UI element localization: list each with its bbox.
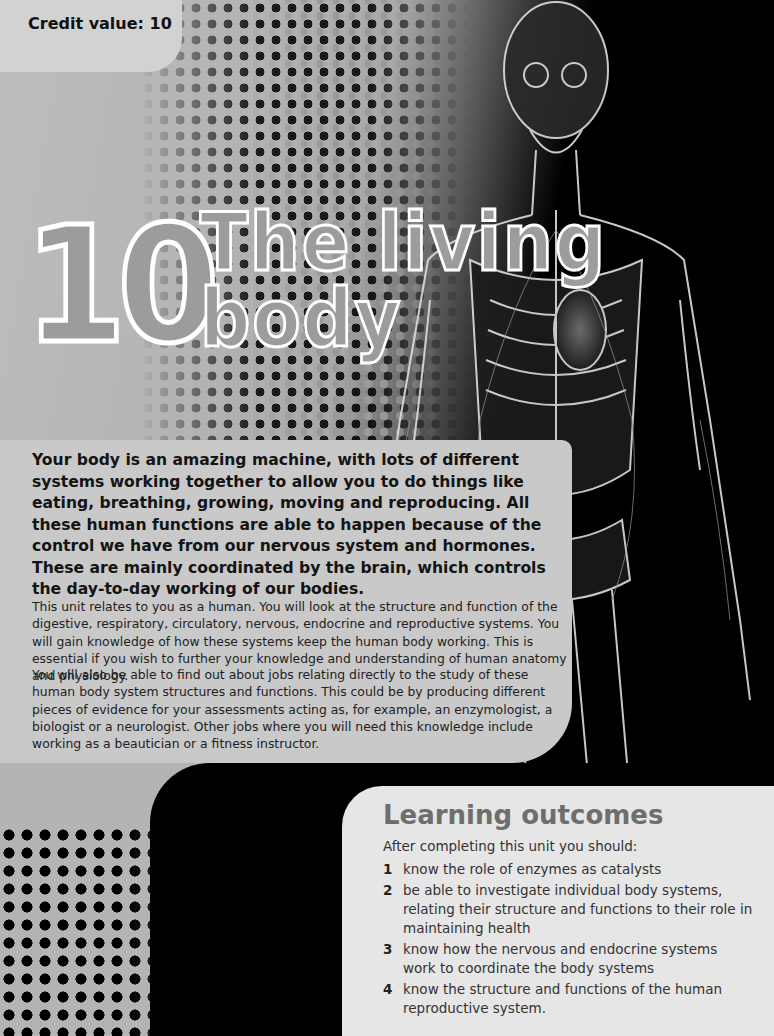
credit-value-tab: Credit value: 10 [0,0,182,72]
list-item: 4know the structure and functions of the… [383,980,753,1018]
chapter-title-line1: The living [200,205,607,281]
textbook-page: Credit value: 10 10 The living body Your… [0,0,774,1036]
list-item-number: 1 [383,860,403,879]
list-item-text: know the structure and functions of the … [403,980,753,1018]
chapter-title-line2: body [200,281,607,357]
list-item-number: 2 [383,881,403,938]
list-item: 2be able to investigate individual body … [383,881,753,938]
intro-paragraph: You will also be able to find out about … [32,666,572,752]
list-item: 3know how the nervous and endocrine syst… [383,940,753,978]
list-item: 1know the role of enzymes as catalysts [383,860,753,879]
list-item-text: know how the nervous and endocrine syste… [403,940,753,978]
learning-outcomes-list: 1know the role of enzymes as catalysts 2… [383,860,753,1020]
chapter-title: The living body [200,205,607,357]
list-item-text: be able to investigate individual body s… [403,881,753,938]
list-item-number: 4 [383,980,403,1018]
chapter-number: 10 [24,206,210,366]
list-item-number: 3 [383,940,403,978]
intro-lead-paragraph: Your body is an amazing machine, with lo… [32,450,572,601]
credit-value-label: Credit value: 10 [28,14,172,33]
learning-outcomes-intro: After completing this unit you should: [383,838,637,854]
learning-outcomes-heading: Learning outcomes [383,800,663,830]
list-item-text: know the role of enzymes as catalysts [403,860,661,879]
